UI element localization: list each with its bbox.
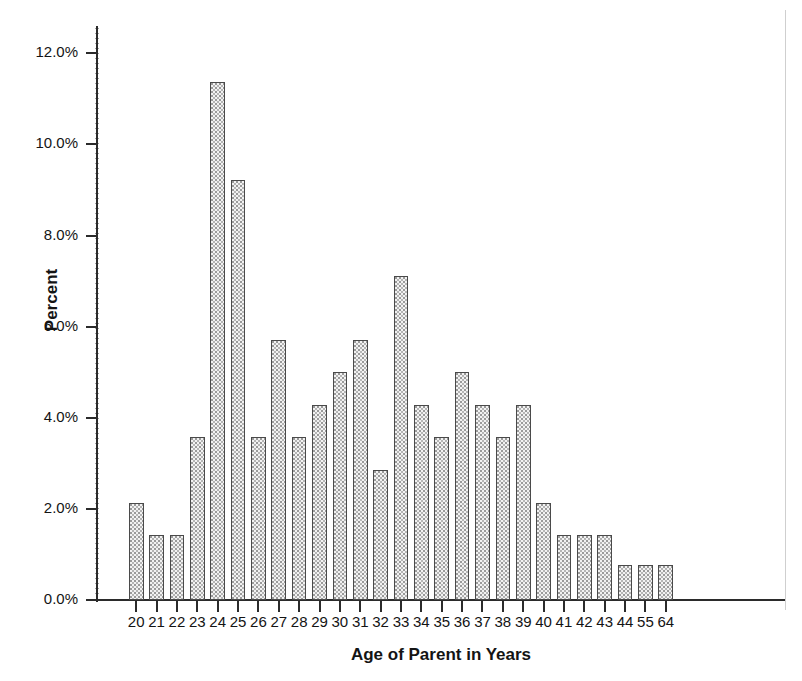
x-tick-mark [237, 601, 239, 612]
bar [251, 437, 266, 600]
x-tick-mark [665, 601, 667, 612]
x-tick-mark [257, 601, 259, 612]
y-tick-label: 6.0% [12, 317, 78, 334]
x-tick-mark [481, 601, 483, 612]
bar [455, 372, 470, 600]
x-tick-mark [420, 601, 422, 612]
y-tick-label: 4.0% [12, 408, 78, 425]
y-tick-label: 12.0% [12, 43, 78, 60]
y-tick-label: 2.0% [12, 499, 78, 516]
bar-chart: Percent 0.0%2.0%4.0%6.0%8.0%10.0%12.0% 2… [0, 0, 802, 681]
x-tick-mark [380, 601, 382, 612]
y-axis-title: Percent [42, 240, 62, 360]
y-tick-label: 8.0% [12, 226, 78, 243]
bar [557, 535, 572, 600]
x-tick-mark [583, 601, 585, 612]
bar [210, 82, 225, 600]
x-axis-title: Age of Parent in Years [96, 645, 786, 665]
x-tick-mark [278, 601, 280, 612]
bar [577, 535, 592, 600]
bar [658, 565, 673, 600]
bar [414, 405, 429, 600]
x-tick-mark [461, 601, 463, 612]
x-tick-mark [522, 601, 524, 612]
x-tick-mark [543, 601, 545, 612]
x-axis-tick-labels: 2021222324252627282930313233343536373839… [96, 613, 786, 637]
x-tick-label: 64 [651, 613, 681, 630]
bar [129, 503, 144, 600]
bar [333, 372, 348, 600]
bar [292, 437, 307, 600]
x-tick-mark [135, 601, 137, 612]
y-tick-label: 10.0% [12, 134, 78, 151]
x-tick-mark [217, 601, 219, 612]
bar [475, 405, 490, 600]
x-tick-mark [196, 601, 198, 612]
x-tick-mark [604, 601, 606, 612]
y-tick-label: 0.0% [12, 590, 78, 607]
x-tick-mark [339, 601, 341, 612]
x-tick-mark [441, 601, 443, 612]
x-tick-mark [176, 601, 178, 612]
bar [618, 565, 633, 600]
bar [638, 565, 653, 600]
x-tick-mark [319, 601, 321, 612]
bar [353, 340, 368, 600]
bar [597, 535, 612, 600]
x-tick-mark [359, 601, 361, 612]
bar [496, 437, 511, 600]
x-tick-mark [624, 601, 626, 612]
x-tick-mark [563, 601, 565, 612]
bar [394, 276, 409, 600]
bar [149, 535, 164, 600]
bar [516, 405, 531, 600]
bar [536, 503, 551, 600]
x-tick-mark [644, 601, 646, 612]
x-tick-mark [156, 601, 158, 612]
bar [373, 470, 388, 600]
x-tick-mark [400, 601, 402, 612]
bar [271, 340, 286, 600]
bar [312, 405, 327, 600]
bar [434, 437, 449, 600]
bar [190, 437, 205, 600]
bar [231, 180, 246, 600]
bar [170, 535, 185, 600]
x-tick-mark [298, 601, 300, 612]
x-tick-mark [502, 601, 504, 612]
bars-layer [96, 26, 786, 600]
